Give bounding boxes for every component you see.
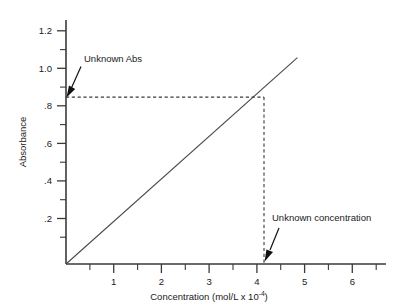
x-tick-label-2: 2 xyxy=(159,276,164,287)
chart-background xyxy=(0,0,409,305)
x-axis-title-suffix: ) xyxy=(265,291,268,302)
x-tick-label-4: 4 xyxy=(254,276,259,287)
y-tick-label-0.6: .6 xyxy=(44,138,52,149)
x-tick-label-1: 1 xyxy=(111,276,116,287)
chart-figure: 1.2 1.0 .8 .6 .4 .2 Absorbance xyxy=(0,0,409,305)
beers-law-calibration-chart: 1.2 1.0 .8 .6 .4 .2 Absorbance xyxy=(0,0,409,305)
x-tick-label-5: 5 xyxy=(302,276,307,287)
y-tick-label-0.8: .8 xyxy=(44,100,52,111)
y-tick-label-1.0: 1.0 xyxy=(39,63,52,74)
unknown-absorbance-label: Unknown Abs xyxy=(84,53,142,64)
y-tick-label-0.4: .4 xyxy=(44,175,52,186)
unknown-concentration-label: Unknown concentration xyxy=(272,212,371,223)
y-tick-label-1.2: 1.2 xyxy=(39,25,52,36)
x-axis-title: Concentration (mol/L x 10-4) xyxy=(150,290,267,302)
svg-text:Concentration (mol/L x 10-4): Concentration (mol/L x 10-4) xyxy=(150,290,267,302)
x-axis-title-main: Concentration (mol/L x 10 xyxy=(150,291,258,302)
x-tick-label-3: 3 xyxy=(206,276,211,287)
y-axis-title: Absorbance xyxy=(17,117,28,168)
y-tick-label-0.2: .2 xyxy=(44,213,52,224)
x-tick-label-6: 6 xyxy=(350,276,355,287)
